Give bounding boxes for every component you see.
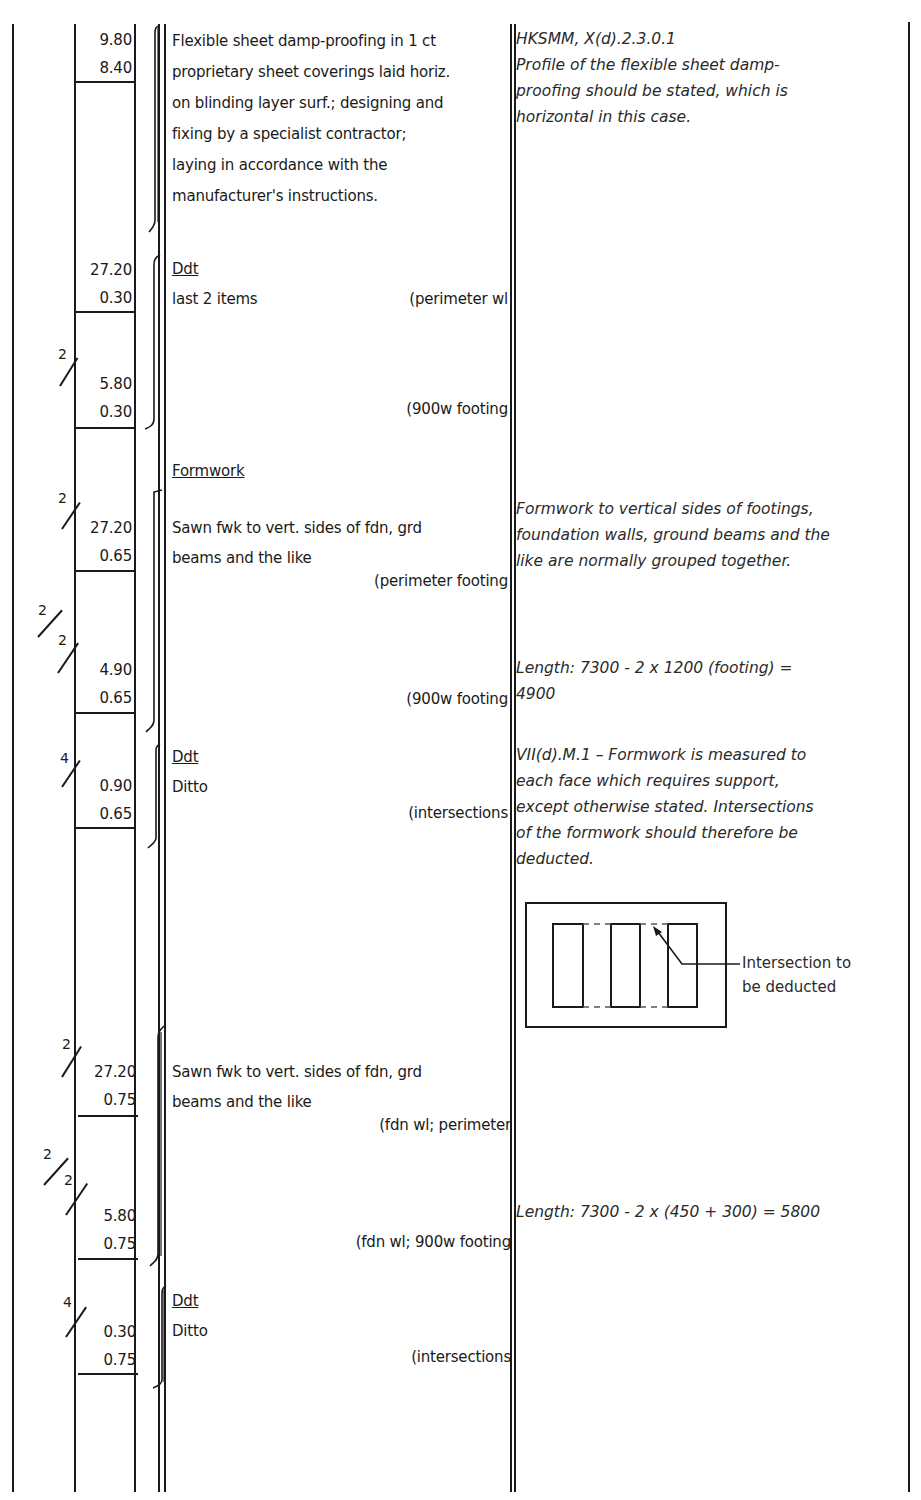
ddt-heading: Ddt <box>172 742 508 772</box>
location-annotation: (intersections <box>408 804 508 822</box>
note-line: like are normally grouped together. <box>516 548 906 574</box>
note-line: Length: 7300 - 2 x 1200 (footing) = <box>516 655 906 681</box>
dimension-column-right-rule <box>134 24 136 1492</box>
note-line: Profile of the flexible sheet damp- <box>516 52 906 78</box>
description-line: beams and the like <box>172 543 508 573</box>
note-line: horizontal in this case. <box>516 104 906 130</box>
dimension-group: 27.20 0.65 <box>74 514 132 570</box>
description-line: beams and the like <box>172 1087 508 1117</box>
dimension-group: 5.80 0.75 <box>78 1202 136 1258</box>
description-line: laying in accordance with the <box>172 150 508 181</box>
item-description: Sawn fwk to vert. sides of fdn, grd beam… <box>172 513 508 573</box>
dimension-value: 5.80 <box>78 1202 136 1230</box>
bracket-icon <box>146 24 164 236</box>
note-line: 4900 <box>516 681 906 707</box>
dimension-value: 5.80 <box>74 370 132 398</box>
dimension-value: 0.75 <box>78 1346 136 1374</box>
item-description: Flexible sheet damp-proofing in 1 ct pro… <box>172 26 508 212</box>
description-line: Ditto <box>172 772 508 802</box>
location-annotation: (perimeter footing <box>374 572 508 590</box>
dimension-value: 0.65 <box>74 684 132 712</box>
dimension-group: 4.90 0.65 <box>74 656 132 712</box>
item-description: Sawn fwk to vert. sides of fdn, grd beam… <box>172 1057 508 1117</box>
dimension-value: 4.90 <box>74 656 132 684</box>
taking-off-sheet: 9.80 8.40 Flexible sheet damp-proofing i… <box>0 0 921 1500</box>
note-line: Length: 7300 - 2 x (450 + 300) = 5800 <box>516 1199 906 1225</box>
note-line: foundation walls, ground beams and the <box>516 522 906 548</box>
dim-underline <box>76 570 136 572</box>
location-annotation: (fdn wl; perimeter <box>379 1116 511 1134</box>
bracket-icon <box>148 1024 166 1274</box>
timesing-value: 2 <box>64 1172 73 1188</box>
dimension-group: 27.20 0.30 <box>74 256 132 312</box>
note-line: deducted. <box>516 846 906 872</box>
dimension-value: 0.30 <box>74 398 132 426</box>
item-note: HKSMM, X(d).2.3.0.1 Profile of the flexi… <box>516 26 906 130</box>
note-line: except otherwise stated. Intersections <box>516 794 906 820</box>
caption-line: Intersection to <box>742 951 851 975</box>
item-note: Length: 7300 - 2 x 1200 (footing) = 4900 <box>516 655 906 707</box>
ddt-heading: Ddt <box>172 1286 508 1316</box>
footing-left <box>553 924 583 1007</box>
intersection-diagram <box>520 880 760 1040</box>
dim-underline <box>76 712 136 714</box>
caption-line: be deducted <box>742 975 851 999</box>
footing-middle <box>611 924 640 1007</box>
dimension-column-left-rule <box>74 24 76 1492</box>
diagram-caption: Intersection to be deducted <box>742 951 851 999</box>
dimension-value: 8.40 <box>74 54 132 82</box>
dimension-value: 27.20 <box>78 1058 136 1086</box>
location-annotation: (intersections <box>411 1348 511 1366</box>
item-note: Formwork to vertical sides of footings, … <box>516 496 906 574</box>
note-reference: VII(d).M.1 – Formwork is measured to <box>516 742 906 768</box>
item-note: VII(d).M.1 – Formwork is measured to eac… <box>516 742 906 872</box>
dim-underline <box>78 1115 138 1117</box>
dimension-value: 0.75 <box>78 1230 136 1258</box>
description-line: Flexible sheet damp-proofing in 1 ct <box>172 26 508 57</box>
timesing-value: 4 <box>63 1294 72 1310</box>
sheet-right-rule <box>908 22 910 1492</box>
dimension-value: 0.30 <box>74 284 132 312</box>
description-line: on blinding layer surf.; designing and <box>172 88 508 119</box>
item-note: Length: 7300 - 2 x (450 + 300) = 5800 <box>516 1199 906 1225</box>
bracket-icon <box>150 1284 168 1394</box>
dimension-value: 0.90 <box>74 772 132 800</box>
location-annotation: (fdn wl; 900w footing <box>356 1233 511 1251</box>
note-reference: HKSMM, X(d).2.3.0.1 <box>516 26 906 52</box>
timesing-column-left-rule <box>12 24 14 1492</box>
dim-underline <box>78 1258 138 1260</box>
location-annotation: (perimeter wl <box>409 290 508 308</box>
dimension-value: 0.65 <box>74 542 132 570</box>
timesing-value: 2 <box>58 632 67 648</box>
location-annotation: (900w footing <box>406 400 508 418</box>
dimension-group: 9.80 8.40 <box>74 26 132 82</box>
dimension-group: 0.90 0.65 <box>74 772 132 828</box>
item-description: Ddt Ditto <box>172 742 508 802</box>
arrow-leader <box>658 932 740 964</box>
dimension-group: 0.30 0.75 <box>78 1318 136 1374</box>
dimension-value: 0.30 <box>78 1318 136 1346</box>
dimension-value: 27.20 <box>74 514 132 542</box>
description-line: fixing by a specialist contractor; <box>172 119 508 150</box>
bracket-icon <box>144 253 164 433</box>
dimension-value: 0.75 <box>78 1086 136 1114</box>
timesing-value: 2 <box>43 1146 52 1162</box>
dim-underline <box>74 427 136 429</box>
note-line: Formwork to vertical sides of footings, <box>516 496 906 522</box>
note-line: each face which requires support, <box>516 768 906 794</box>
formwork-heading: Formwork <box>172 456 508 487</box>
timesing-value: 2 <box>62 1036 71 1052</box>
timesing-value: 2 <box>58 346 67 362</box>
dimension-value: 9.80 <box>74 26 132 54</box>
timesing-value: 2 <box>38 602 47 618</box>
description-line: manufacturer's instructions. <box>172 181 508 212</box>
note-line: of the formwork should therefore be <box>516 820 906 846</box>
dimension-group: 5.80 0.30 <box>74 370 132 426</box>
dimension-value: 0.65 <box>74 800 132 828</box>
note-line: proofing should be stated, which is <box>516 78 906 104</box>
bracket-icon <box>144 488 164 738</box>
dimension-group: 27.20 0.75 <box>78 1058 136 1114</box>
description-line: Sawn fwk to vert. sides of fdn, grd <box>172 1057 508 1087</box>
description-line: proprietary sheet coverings laid horiz. <box>172 57 508 88</box>
timesing-value: 2 <box>58 490 67 506</box>
